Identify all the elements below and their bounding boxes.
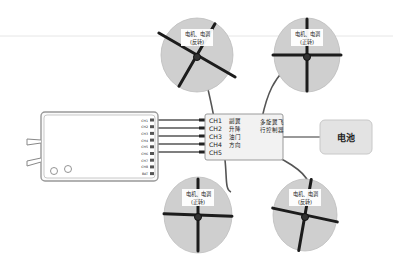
fc-channel-label: CH5: [209, 149, 222, 156]
receiver-pin-label: CH5: [141, 145, 148, 149]
motor-hub: [304, 54, 311, 61]
receiver-pin: [150, 152, 154, 155]
fc-channel-label: CH2: [209, 125, 222, 132]
receiver-button: [65, 166, 72, 173]
receiver-pin: [150, 125, 154, 128]
receiver-pin: [150, 165, 154, 168]
fc-channel-function: 方向: [229, 141, 241, 149]
flight-controller: CH1副翼CH2升降CH3油门CH4方向CH5 多旋翼飞 行控制器: [205, 114, 284, 160]
battery-label: 电池: [337, 132, 355, 143]
battery: 电池: [320, 120, 372, 154]
receiver-pin: [150, 172, 154, 175]
receiver-pin-label: CH3: [141, 132, 148, 136]
receiver-pin: [150, 119, 154, 122]
motor-rear-left: 电机、电调(正转): [164, 177, 232, 253]
fc-channel-label: CH3: [209, 133, 222, 140]
receiver-pin-label: BAT: [142, 172, 148, 176]
motor-hub: [302, 214, 309, 221]
antenna-lead: [27, 158, 41, 166]
receiver-pin-label: CH6: [141, 152, 148, 156]
motor-label-line2: (正转): [191, 198, 205, 206]
channel-wires: [158, 119, 205, 154]
fc-channel-function: 副翼: [229, 117, 241, 125]
receiver-pin-label: CH2: [141, 125, 148, 129]
motor-front-left: 电机、电调(反转): [159, 18, 235, 92]
receiver-pin-label: CH8: [141, 165, 148, 169]
receiver-led: [51, 168, 58, 175]
motor-label-line2: (反转): [298, 198, 312, 206]
motor-label-line1: 电机、电调: [185, 30, 210, 38]
receiver-pin: [150, 139, 154, 142]
motor-front-right: 电机、电调(正转): [273, 18, 341, 92]
receiver-pin: [150, 145, 154, 148]
motor-rear-right: 电机、电调(反转): [273, 179, 338, 251]
wire-rear-left: [225, 160, 231, 192]
receiver-pin-label: CH4: [141, 139, 148, 143]
receiver-pin-label: CH1: [141, 119, 148, 123]
antenna-lead: [27, 139, 41, 145]
fc-channel-function: 升降: [229, 125, 241, 133]
motor-label-line1: 电机、电调: [295, 30, 320, 38]
receiver-pin: [150, 159, 154, 162]
receiver-pin: [150, 132, 154, 135]
fc-channel-function: 油门: [229, 133, 241, 141]
motor-hub: [195, 214, 202, 221]
quadcopter-wiring-diagram: CH1CH2CH3CH4CH5CH6CH7CH8BAT CH1副翼CH2升降CH…: [0, 0, 393, 270]
fc-label-line1: 多旋翼飞: [260, 118, 284, 126]
receiver-pin-label: CH7: [141, 159, 148, 163]
motor-hub: [194, 54, 201, 61]
fc-label-line2: 行控制器: [260, 126, 284, 134]
fc-channel-label: CH4: [209, 141, 222, 148]
receiver-pin-labels: CH1CH2CH3CH4CH5CH6CH7CH8BAT: [141, 119, 154, 177]
motor-label-line2: (正转): [300, 38, 314, 46]
fc-channel-label: CH1: [209, 117, 222, 124]
motor-label-line2: (反转): [190, 38, 204, 46]
motor-label-line1: 电机、电调: [293, 190, 318, 198]
motor-label-line1: 电机、电调: [186, 190, 211, 198]
receiver: CH1CH2CH3CH4CH5CH6CH7CH8BAT: [27, 112, 158, 181]
